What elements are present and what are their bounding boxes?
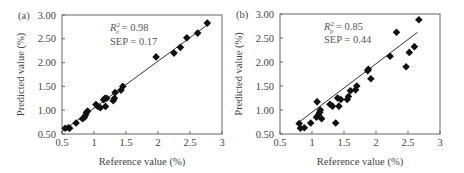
data-point-diamond bbox=[332, 119, 340, 127]
y-tick-label: 0.50 bbox=[38, 129, 56, 140]
data-point-diamond bbox=[411, 43, 419, 51]
data-point-diamond bbox=[170, 49, 178, 57]
panel-label: (a) bbox=[18, 10, 30, 22]
x-tick-label: 2 bbox=[155, 137, 160, 148]
chart-b-svg: 0.511.522.530.501.001.502.002.503.00(b)R… bbox=[232, 0, 464, 173]
data-point-diamond bbox=[415, 16, 423, 24]
r-squared-annotation: R2p = 0.85 bbox=[323, 20, 363, 35]
y-tick-label: 2.00 bbox=[256, 57, 274, 68]
y-axis-title: Predicted value (%) bbox=[15, 32, 27, 116]
plot-frame bbox=[280, 14, 440, 134]
data-point-diamond bbox=[405, 49, 413, 57]
x-tick-label: 1 bbox=[309, 137, 314, 148]
y-tick-label: 2.50 bbox=[256, 33, 274, 44]
x-tick-label: 1.5 bbox=[337, 137, 350, 148]
x-tick-label: 3 bbox=[219, 137, 224, 148]
data-point-diamond bbox=[313, 98, 321, 106]
data-point-diamond bbox=[386, 52, 394, 60]
x-tick-label: 1.5 bbox=[119, 137, 132, 148]
x-tick-label: 2.5 bbox=[183, 137, 196, 148]
x-tick-label: 3 bbox=[437, 137, 442, 148]
data-point-diamond bbox=[183, 34, 191, 42]
y-tick-label: 1.00 bbox=[256, 105, 274, 116]
data-point-diamond bbox=[307, 119, 315, 127]
panel-label: (b) bbox=[236, 9, 249, 21]
r-squared-annotation: R2c = 0.98 bbox=[109, 21, 149, 36]
data-point-diamond bbox=[72, 119, 80, 127]
x-axis-title: Reference value (%) bbox=[317, 156, 404, 168]
y-tick-label: 0.50 bbox=[256, 129, 274, 140]
y-tick-label: 1.50 bbox=[38, 81, 56, 92]
x-tick-label: 1 bbox=[91, 137, 96, 148]
x-axis-title: Reference value (%) bbox=[99, 156, 186, 168]
regression-line bbox=[296, 32, 418, 124]
data-point-diamond bbox=[402, 63, 410, 71]
sep-annotation: SEP = 0.44 bbox=[324, 34, 372, 45]
data-point-diamond bbox=[203, 19, 211, 27]
data-point-diamond bbox=[177, 44, 185, 52]
data-point-diamond bbox=[152, 53, 160, 61]
chart-a-svg: 0.511.522.530.501.001.502.002.503.00(a)R… bbox=[0, 0, 232, 173]
scatter-panel-b: 0.511.522.530.501.001.502.002.503.00(b)R… bbox=[232, 0, 464, 173]
y-tick-label: 2.00 bbox=[38, 57, 56, 68]
scatter-panel-a: 0.511.522.530.501.001.502.002.503.00(a)R… bbox=[0, 0, 232, 173]
y-tick-label: 1.50 bbox=[256, 81, 274, 92]
y-tick-label: 2.50 bbox=[38, 33, 56, 44]
x-tick-label: 2.5 bbox=[401, 137, 414, 148]
sep-annotation: SEP = 0.17 bbox=[110, 36, 157, 47]
y-axis-title: Predicted value (%) bbox=[233, 32, 245, 116]
data-point-diamond bbox=[335, 102, 343, 110]
data-point-diamond bbox=[393, 28, 401, 36]
y-tick-label: 3.00 bbox=[38, 10, 56, 21]
x-tick-label: 0.5 bbox=[55, 137, 68, 148]
x-tick-label: 2 bbox=[373, 137, 378, 148]
y-tick-label: 3.00 bbox=[256, 9, 274, 20]
x-tick-label: 0.5 bbox=[273, 137, 286, 148]
y-tick-label: 1.00 bbox=[38, 105, 56, 116]
data-point-diamond bbox=[367, 75, 375, 83]
